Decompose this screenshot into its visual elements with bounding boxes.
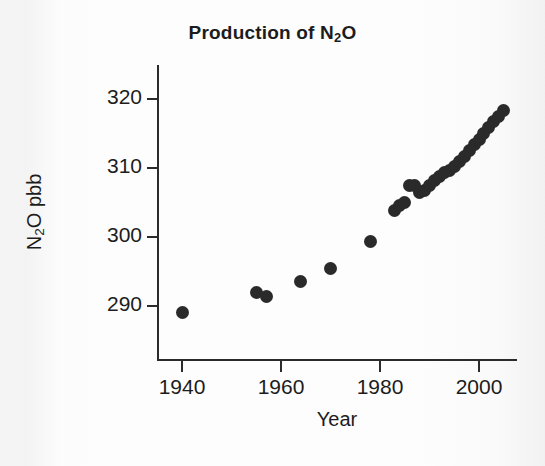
data-point <box>398 196 411 209</box>
data-point <box>497 104 510 117</box>
chart-figure: Production of N2O N2O pbb Year 290300310… <box>0 0 545 466</box>
data-point <box>364 235 377 248</box>
plot-area <box>0 0 545 466</box>
data-point <box>260 290 273 303</box>
data-point <box>294 275 307 288</box>
data-point <box>176 306 189 319</box>
data-point <box>324 262 337 275</box>
